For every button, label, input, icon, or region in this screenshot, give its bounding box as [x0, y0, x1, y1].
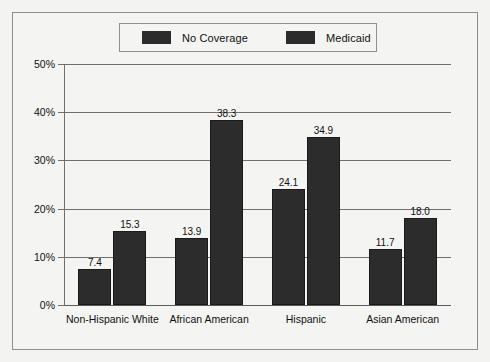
- bar-value-label: 15.3: [120, 219, 139, 230]
- legend-entry-medicaid: Medicaid: [286, 24, 371, 51]
- y-tick-mark-0pct: [58, 305, 65, 306]
- bar-no-coverage-asian-american[interactable]: 11.7: [369, 249, 402, 305]
- bar-no-coverage-hispanic[interactable]: 24.1: [272, 189, 305, 305]
- gridline-0pct: [64, 305, 451, 306]
- bar-value-label: 34.9: [314, 125, 333, 136]
- legend-label-no-coverage: No Coverage: [182, 32, 248, 44]
- x-axis-category-label: African American: [169, 313, 248, 325]
- bar-value-label: 11.7: [376, 237, 395, 248]
- bar-value-label: 7.4: [88, 257, 102, 268]
- bar-value-label: 38.3: [217, 108, 236, 119]
- y-axis-tick-label: 20%: [34, 203, 55, 215]
- bar-medicaid-african-american[interactable]: 38.3: [210, 120, 243, 305]
- legend-entry-no-coverage: No Coverage: [142, 24, 248, 51]
- bar-medicaid-asian-american[interactable]: 18.0: [404, 218, 437, 305]
- chart-frame: No Coverage Medicaid 50%40%30%20%10%0% 7…: [12, 12, 478, 350]
- y-axis-tick-label: 10%: [34, 251, 55, 263]
- x-axis-category-label: Non-Hispanic White: [66, 313, 159, 325]
- bar-no-coverage-non-hispanic-white[interactable]: 7.4: [78, 269, 111, 305]
- chart-legend: No Coverage Medicaid: [119, 23, 377, 52]
- x-axis-category-label: Hispanic: [286, 313, 326, 325]
- y-axis-tick-label: 50%: [34, 58, 55, 70]
- bars-group: 7.415.313.938.324.134.911.718.0: [64, 64, 451, 305]
- bar-value-label: 18.0: [410, 206, 429, 217]
- bar-value-label: 13.9: [182, 226, 201, 237]
- legend-label-medicaid: Medicaid: [326, 32, 371, 44]
- legend-swatch-icon-no-coverage: [142, 31, 171, 44]
- legend-swatch-icon-medicaid: [286, 31, 315, 44]
- x-axis-category-label: Asian American: [366, 313, 439, 325]
- bar-no-coverage-african-american[interactable]: 13.9: [175, 238, 208, 305]
- plot-area: 50%40%30%20%10%0% 7.415.313.938.324.134.…: [64, 64, 451, 305]
- bar-medicaid-hispanic[interactable]: 34.9: [307, 137, 340, 305]
- bar-value-label: 24.1: [279, 177, 298, 188]
- bar-medicaid-non-hispanic-white[interactable]: 15.3: [113, 231, 146, 305]
- y-axis-tick-label: 30%: [34, 154, 55, 166]
- y-axis-tick-label: 40%: [34, 106, 55, 118]
- chart-screenshot: No Coverage Medicaid 50%40%30%20%10%0% 7…: [0, 0, 490, 362]
- y-axis-tick-label: 0%: [40, 299, 55, 311]
